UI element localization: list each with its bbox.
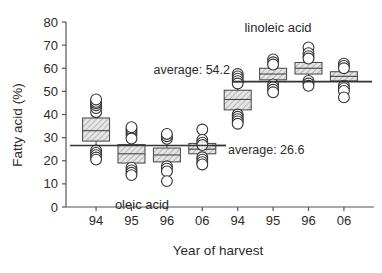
boxplot-group [189,124,216,170]
data-point-circle [197,124,208,135]
y-tick-label: 70 [44,38,58,53]
fatty-acid-boxplot-chart: 01020304050607080 9495960694959606 Fatty… [0,0,382,273]
data-point-circle [268,87,279,98]
boxplot-group [118,122,145,181]
y-axis-tick-labels: 01020304050607080 [44,15,58,215]
data-point-circle [91,154,102,165]
box-iqr [83,118,110,141]
data-point-circle [268,59,279,70]
data-point-circle [161,129,172,140]
x-tick-label: 06 [195,213,209,228]
x-tick-label: 96 [160,213,174,228]
y-tick-label: 40 [44,107,58,122]
data-point-circle [126,170,137,181]
chart-figure: 01020304050607080 9495960694959606 Fatty… [0,0,382,273]
group-label-linoleic: linoleic acid [244,20,311,35]
group-label-oleic: oleic acid [115,197,169,212]
x-axis-title: Year of harvest [173,243,264,258]
data-point-circle [232,118,243,129]
boxplot-group [260,54,287,98]
x-axis-tick-labels: 9495960694959606 [89,213,351,228]
boxplot-group [83,94,110,165]
data-point-circle [197,159,208,170]
x-tick-label: 95 [124,213,138,228]
chart-axes [62,22,374,211]
x-tick-label: 94 [89,213,103,228]
x-tick-label: 96 [301,213,315,228]
data-point-circle [303,53,314,64]
x-tick-label: 06 [337,213,351,228]
boxplot-group [224,69,251,130]
boxplot-group [153,129,180,187]
data-point-circle [339,63,350,74]
y-tick-label: 20 [44,153,58,168]
box-iqr [224,90,251,110]
y-axis-title: Fatty acid (%) [10,83,25,166]
average-oleic-annotation: average: 26.6 [228,143,304,157]
y-tick-label: 50 [44,84,58,99]
data-point-circle [126,122,137,133]
boxplot-group [295,42,322,91]
y-tick-label: 60 [44,61,58,76]
data-point-circle [232,78,243,89]
y-tick-label: 0 [51,200,58,215]
average-linoleic-annotation: average: 54.2 [154,63,230,77]
data-point-circle [339,92,350,103]
y-tick-label: 80 [44,15,58,30]
x-tick-label: 94 [230,213,244,228]
boxplot-group [330,58,357,103]
data-point-circle [91,94,102,105]
y-tick-label: 10 [44,176,58,191]
y-tick-label: 30 [44,130,58,145]
x-tick-label: 95 [266,213,280,228]
data-point-circle [126,133,137,144]
average-lines-layer [70,82,372,146]
data-point-circle [161,176,172,187]
